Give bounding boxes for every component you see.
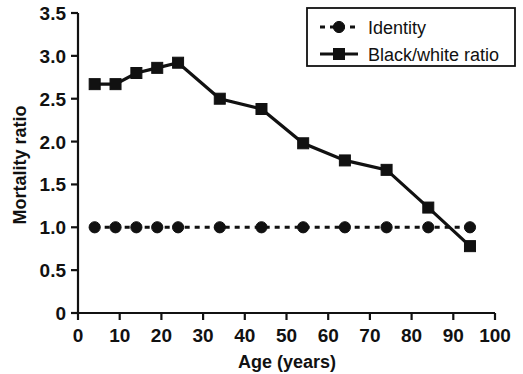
y-axis-title: Mortality ratio: [10, 105, 30, 224]
data-point-marker: [339, 222, 350, 233]
y-tick-label: 0.5: [40, 260, 67, 281]
x-tick-label: 100: [479, 325, 511, 346]
x-tick-label: 50: [276, 325, 297, 346]
data-point-marker: [172, 222, 183, 233]
data-point-marker: [339, 155, 350, 166]
chart-legend: IdentityBlack/white ratio: [307, 8, 515, 66]
data-series-group: [89, 57, 476, 251]
data-point-marker: [464, 241, 475, 252]
x-tick-label: 0: [73, 325, 84, 346]
data-point-marker: [256, 104, 267, 115]
x-tick-label: 80: [401, 325, 422, 346]
y-tick-label: 3.0: [40, 46, 66, 67]
data-point-marker: [298, 138, 309, 149]
y-tick-label: 2.0: [40, 132, 66, 153]
y-tick-label: 2.5: [40, 89, 67, 110]
data-point-marker: [256, 222, 267, 233]
x-tick-label: 90: [443, 325, 464, 346]
data-point-marker: [214, 93, 225, 104]
data-point-marker: [89, 79, 100, 90]
data-point-marker: [381, 222, 392, 233]
data-point-marker: [173, 57, 184, 68]
data-point-marker: [152, 62, 163, 73]
legend-swatch-marker: [333, 21, 344, 32]
x-tick-label: 70: [359, 325, 380, 346]
legend-label: Identity: [368, 18, 426, 38]
data-point-marker: [423, 202, 434, 213]
data-point-marker: [214, 222, 225, 233]
x-axis: [78, 313, 495, 320]
data-point-marker: [89, 222, 100, 233]
data-point-marker: [131, 222, 142, 233]
y-axis-tick-labels: 00.51.01.52.02.53.03.5: [40, 3, 67, 324]
x-tick-label: 10: [109, 325, 130, 346]
data-point-marker: [298, 222, 309, 233]
data-point-marker: [381, 164, 392, 175]
legend-label: Black/white ratio: [368, 45, 499, 65]
data-point-marker: [423, 222, 434, 233]
data-point-marker: [110, 222, 121, 233]
y-tick-label: 1.5: [40, 174, 67, 195]
x-tick-label: 30: [193, 325, 214, 346]
data-point-marker: [464, 222, 475, 233]
y-axis: [71, 13, 78, 313]
data-point-marker: [152, 222, 163, 233]
data-point-marker: [110, 79, 121, 90]
series-black-white-ratio: [89, 57, 475, 251]
x-tick-label: 40: [234, 325, 255, 346]
x-axis-title: Age (years): [238, 352, 336, 372]
x-axis-tick-labels: 0102030405060708090100: [73, 325, 511, 346]
x-tick-label: 60: [318, 325, 339, 346]
mortality-ratio-chart: 00.51.01.52.02.53.03.5 01020304050607080…: [0, 0, 523, 374]
series-identity: [89, 222, 476, 233]
y-tick-label: 0: [55, 303, 66, 324]
y-tick-label: 1.0: [40, 217, 66, 238]
chart-canvas: 00.51.01.52.02.53.03.5 01020304050607080…: [0, 0, 523, 374]
y-tick-label: 3.5: [40, 3, 67, 24]
x-tick-label: 20: [151, 325, 172, 346]
data-point-marker: [131, 68, 142, 79]
legend-swatch-marker: [334, 49, 345, 60]
